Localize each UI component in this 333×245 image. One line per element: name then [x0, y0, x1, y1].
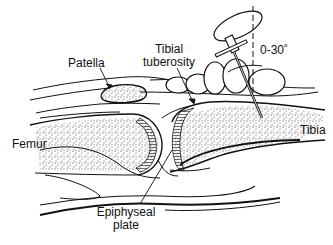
angle-label: 0-30˚: [260, 44, 288, 57]
tibia: [158, 101, 325, 176]
tibial-tuberosity-label: Tibial tuberosity: [137, 43, 201, 69]
epiphyseal-plate-label-line2: plate: [94, 219, 158, 232]
femur: [30, 114, 162, 175]
femur-label: Femur: [12, 138, 47, 151]
tibial-tuberosity-label-line2: tuberosity: [137, 56, 201, 69]
epiphyseal-plate-label: Epiphyseal plate: [94, 206, 158, 232]
tibia-label: Tibia: [300, 124, 326, 137]
patella: [101, 85, 146, 103]
patella-label: Patella: [68, 57, 105, 70]
diagram-artwork: [0, 0, 333, 245]
knee-intraosseous-diagram: Patella Tibial tuberosity 0-30˚ Femur Ti…: [0, 0, 333, 245]
